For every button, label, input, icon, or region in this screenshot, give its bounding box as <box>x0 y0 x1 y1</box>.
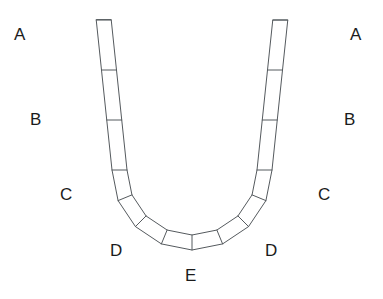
label-c-right: C <box>318 186 330 203</box>
arch-drawing <box>0 0 383 299</box>
label-d-right: D <box>265 242 277 259</box>
label-a-right: A <box>350 26 361 43</box>
label-c-left: C <box>60 186 72 203</box>
arch-diagram: A A B B C C D D E <box>0 0 383 299</box>
label-e-center: E <box>185 267 196 284</box>
label-b-right: B <box>344 111 355 128</box>
arch-outline <box>96 20 288 250</box>
label-d-left: D <box>110 242 122 259</box>
label-b-left: B <box>30 111 41 128</box>
label-a-left: A <box>14 26 25 43</box>
